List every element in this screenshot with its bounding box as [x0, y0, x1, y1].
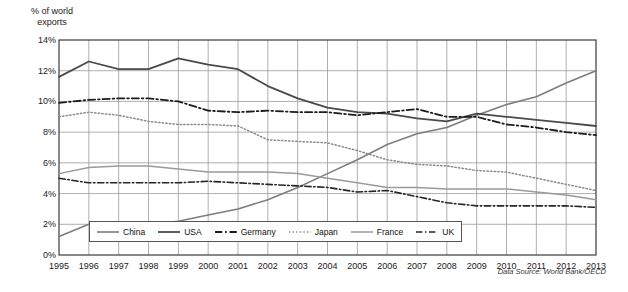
x-axis-tick-label: 2006	[377, 261, 397, 271]
x-axis-tick-label: 2008	[437, 261, 457, 271]
legend-item-germany[interactable]: Germany	[215, 227, 276, 237]
x-axis-tick-label: 1998	[138, 261, 158, 271]
x-axis-tick-label: 2005	[347, 261, 367, 271]
x-axis-tick-label: 2003	[288, 261, 308, 271]
legend-item-china[interactable]: China	[97, 227, 145, 237]
legend-label: Japan	[315, 227, 338, 237]
legend-swatch-icon	[416, 228, 438, 236]
x-axis-tick-label: 1997	[109, 261, 129, 271]
legend-item-japan[interactable]: Japan	[289, 227, 338, 237]
x-axis-tick-label: 2009	[467, 261, 487, 271]
x-axis-tick-label: 1995	[49, 261, 69, 271]
legend-swatch-icon	[158, 228, 180, 236]
chart-legend: ChinaUSAGermanyJapanFranceUK	[89, 221, 462, 242]
legend-label: France	[377, 227, 403, 237]
legend-item-uk[interactable]: UK	[416, 227, 454, 237]
legend-item-usa[interactable]: USA	[158, 227, 201, 237]
legend-label: UK	[442, 227, 454, 237]
x-axis-tick-label: 2001	[228, 261, 248, 271]
chart-container: % of world exports 0%2%4%6%8%10%12%14% 1…	[0, 0, 628, 292]
legend-label: China	[123, 227, 145, 237]
legend-swatch-icon	[215, 228, 237, 236]
x-axis-tick-labels: 1995199619971998199920002001200220032004…	[0, 0, 628, 292]
source-note: Data Source: World Bank/OECD	[498, 267, 606, 276]
legend-swatch-icon	[97, 228, 119, 236]
legend-swatch-icon	[289, 228, 311, 236]
x-axis-tick-label: 1999	[168, 261, 188, 271]
x-axis-tick-label: 2007	[407, 261, 427, 271]
x-axis-tick-label: 2004	[317, 261, 337, 271]
x-axis-tick-label: 2000	[198, 261, 218, 271]
x-axis-tick-label: 1996	[79, 261, 99, 271]
x-axis-tick-label: 2002	[258, 261, 278, 271]
legend-item-france[interactable]: France	[351, 227, 403, 237]
legend-label: Germany	[241, 227, 276, 237]
legend-swatch-icon	[351, 228, 373, 236]
legend-label: USA	[184, 227, 201, 237]
